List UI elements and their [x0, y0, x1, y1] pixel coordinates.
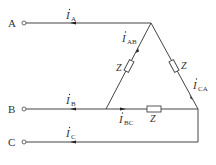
- current-iab-sub: AB: [127, 38, 137, 46]
- terminal-label-a: A: [8, 17, 16, 29]
- current-ic-sub: C: [71, 133, 76, 141]
- current-ica-sub: CA: [198, 85, 208, 93]
- terminal-b-node: [22, 107, 26, 111]
- current-ibc-sub: BC: [124, 119, 134, 127]
- delta-circuit-diagram: A I A B I B C I C Z I AB Z I CA Z I BC: [0, 0, 216, 165]
- phasor-dot: [69, 127, 70, 128]
- line-c-wire: [26, 109, 198, 142]
- arrow-ibc-icon: [120, 108, 126, 111]
- current-ib-sub: B: [71, 100, 76, 108]
- impedance-ab: [124, 60, 134, 73]
- impedance-bc-label: Z: [150, 113, 156, 124]
- phasor-dot: [69, 9, 70, 10]
- impedance-ca: [169, 60, 179, 73]
- terminal-c-node: [22, 140, 26, 144]
- impedance-bc: [147, 106, 161, 112]
- terminal-label-c: C: [8, 136, 15, 148]
- terminal-label-b: B: [8, 103, 15, 115]
- impedance-ca-label: Z: [181, 60, 187, 71]
- terminal-a-node: [22, 21, 26, 25]
- phasor-dot: [69, 94, 70, 95]
- phasor-dot: [196, 78, 197, 79]
- phasor-dot: [125, 31, 126, 32]
- phasor-dot: [122, 112, 123, 113]
- impedance-ab-label: Z: [116, 62, 122, 73]
- current-ia-sub: A: [71, 15, 76, 23]
